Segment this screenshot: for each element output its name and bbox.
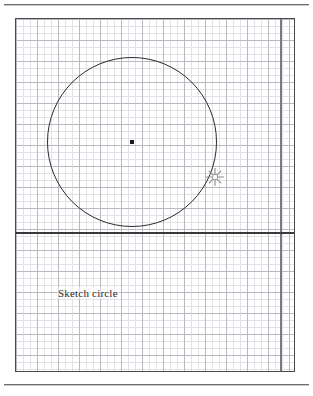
caption-label: Sketch circle <box>57 287 119 299</box>
page-root: Sketch circle <box>0 0 313 396</box>
sketch-canvas[interactable]: Sketch circle <box>15 18 295 372</box>
page-rule-bottom <box>4 384 309 386</box>
horizontal-construction-line <box>16 232 294 234</box>
page-rule-top <box>4 4 309 6</box>
vertical-construction-line <box>280 19 282 371</box>
circle-center-point[interactable] <box>130 140 134 144</box>
